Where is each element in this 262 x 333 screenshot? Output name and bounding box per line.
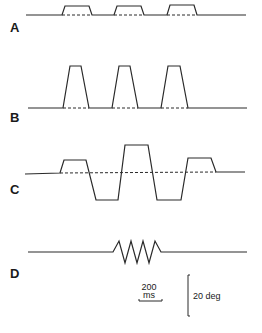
panel-label-b: B	[10, 110, 19, 125]
amplitude-scale-line	[188, 275, 190, 316]
panel-label-c: C	[10, 182, 20, 197]
time-scale-unit: ms	[143, 290, 155, 300]
panel-label-a: A	[10, 20, 20, 35]
trace-a: A	[10, 5, 246, 35]
panel-label-d: D	[10, 266, 19, 281]
trace-b-line	[28, 66, 247, 108]
trace-c: C	[10, 145, 245, 200]
trace-d: D	[10, 241, 247, 281]
time-scale-bar: 200 ms	[139, 282, 162, 301]
trace-d-line	[28, 241, 247, 263]
amplitude-scale-label: 20 deg	[193, 291, 221, 301]
waveform-diagram: A B C D 200 ms 20 deg	[0, 0, 262, 333]
trace-b: B	[10, 66, 247, 125]
amplitude-scale-bar: 20 deg	[188, 275, 221, 316]
trace-c-baseline	[60, 172, 216, 173]
trace-a-line	[26, 5, 246, 15]
